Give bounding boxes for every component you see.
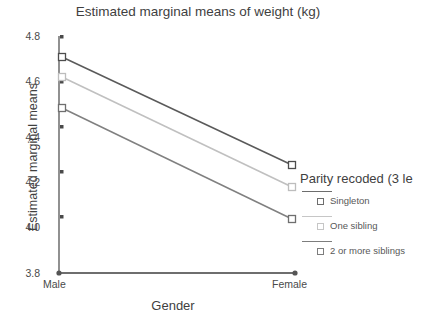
legend-marker-two-or-more-siblings bbox=[317, 248, 324, 255]
legend-item-one-sibling[interactable]: One sibling bbox=[300, 211, 426, 236]
legend-line-swatch-singleton bbox=[302, 191, 332, 192]
data-point-marker bbox=[289, 162, 296, 169]
chart-container: Estimated marginal means of weight (kg) … bbox=[0, 0, 426, 322]
legend-line-swatch-two-or-more-siblings bbox=[302, 241, 332, 242]
legend-title: Parity recoded (3 le bbox=[300, 172, 426, 186]
data-point-marker bbox=[59, 54, 66, 61]
data-point-marker bbox=[289, 184, 296, 191]
legend-marker-one-sibling bbox=[317, 223, 324, 230]
data-point-marker bbox=[289, 216, 296, 223]
legend-line-swatch-one-sibling bbox=[302, 216, 332, 217]
legend-label-singleton: Singleton bbox=[330, 195, 370, 206]
legend-item-singleton[interactable]: Singleton bbox=[300, 186, 426, 211]
series-line-two-or-more-siblings bbox=[59, 105, 296, 223]
legend-marker-singleton bbox=[317, 198, 324, 205]
data-point-marker bbox=[59, 105, 66, 112]
chart-legend: Parity recoded (3 le Singleton One sibli… bbox=[300, 172, 426, 261]
legend-label-two-or-more-siblings: 2 or more siblings bbox=[330, 245, 405, 256]
data-point-marker bbox=[59, 74, 66, 81]
legend-label-one-sibling: One sibling bbox=[330, 220, 378, 231]
chart-plot-area bbox=[0, 0, 426, 322]
y-axis-ticks bbox=[60, 35, 64, 219]
x-axis-label: Gender bbox=[48, 298, 298, 313]
series-line-one-sibling bbox=[59, 74, 296, 191]
legend-item-two-or-more-siblings[interactable]: 2 or more siblings bbox=[300, 236, 426, 261]
series-line-singleton bbox=[59, 54, 296, 169]
